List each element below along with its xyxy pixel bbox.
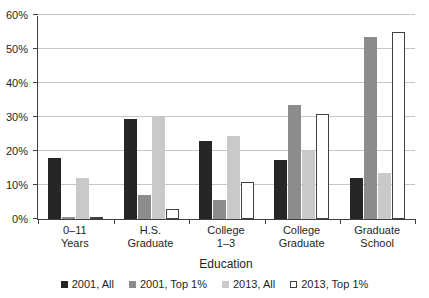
bar <box>392 32 405 219</box>
legend-label: 2013, Top 1% <box>301 278 368 290</box>
bar <box>241 182 254 219</box>
bar <box>138 195 151 219</box>
legend-marker-icon <box>61 281 68 288</box>
y-axis-tick <box>33 48 38 49</box>
bar <box>62 217 75 219</box>
bar <box>76 178 89 219</box>
x-axis-tick <box>189 219 190 224</box>
legend-marker-icon <box>129 281 136 288</box>
bar-group <box>38 16 113 219</box>
bar-group <box>113 16 188 219</box>
legend-marker-icon <box>222 281 229 288</box>
y-axis-tick-label: 50% <box>0 43 28 56</box>
y-axis-tick-label: 30% <box>0 111 28 124</box>
bar-group <box>340 16 415 219</box>
x-axis-tick <box>114 219 115 224</box>
bar <box>90 217 103 219</box>
bar <box>48 158 61 219</box>
legend-item: 2001, Top 1% <box>129 278 207 290</box>
y-axis-tick <box>33 184 38 185</box>
x-axis-title: Education <box>37 257 415 271</box>
x-axis-category-label: 0–11 Years <box>37 224 113 250</box>
x-axis-tick <box>415 219 416 224</box>
bar <box>288 105 301 219</box>
bar <box>378 173 391 219</box>
y-axis-tick-label: 20% <box>0 145 28 158</box>
y-axis-tick <box>33 82 38 83</box>
bar <box>364 37 377 219</box>
bar <box>227 136 240 219</box>
legend-label: 2013, All <box>233 278 275 290</box>
y-axis-tick-label: 60% <box>0 9 28 22</box>
legend: 2001, All2001, Top 1%2013, All2013, Top … <box>0 278 429 290</box>
legend-label: 2001, Top 1% <box>140 278 207 290</box>
bar <box>213 200 226 219</box>
bar-group <box>189 16 264 219</box>
x-axis-category-label: Graduate School <box>339 224 415 250</box>
bar <box>124 119 137 219</box>
x-axis-tick <box>265 219 266 224</box>
x-axis-category-label: H.S. Graduate <box>113 224 189 250</box>
bar <box>274 160 287 220</box>
y-axis-tick-label: 10% <box>0 179 28 192</box>
y-axis-tick-label: 0% <box>0 213 28 226</box>
legend-label: 2001, All <box>72 278 114 290</box>
y-axis-labels: 0%10%20%30%40%50%60% <box>0 16 31 220</box>
y-axis-tick <box>33 150 38 151</box>
legend-item: 2013, Top 1% <box>290 278 368 290</box>
bar <box>152 117 165 219</box>
x-axis-labels: 0–11 YearsH.S. GraduateCollege 1–3Colleg… <box>37 224 415 250</box>
x-axis-tick <box>340 219 341 224</box>
bar-group <box>264 16 339 219</box>
legend-item: 2013, All <box>222 278 275 290</box>
bar-chart-figure: 0%10%20%30%40%50%60% 0–11 YearsH.S. Grad… <box>0 0 429 298</box>
x-axis-category-label: College 1–3 <box>188 224 264 250</box>
bar <box>316 114 329 219</box>
legend-marker-icon <box>290 281 297 288</box>
plot-area <box>37 16 415 220</box>
bar-groups <box>38 16 415 219</box>
bar <box>302 151 315 219</box>
bar <box>350 178 363 219</box>
gridline <box>38 14 415 15</box>
x-axis-tick <box>38 219 39 224</box>
y-axis-tick <box>33 116 38 117</box>
y-axis-tick <box>33 14 38 15</box>
legend-item: 2001, All <box>61 278 114 290</box>
bar <box>199 141 212 219</box>
bar <box>166 209 179 219</box>
x-axis-category-label: College Graduate <box>264 224 340 250</box>
y-axis-tick-label: 40% <box>0 77 28 90</box>
